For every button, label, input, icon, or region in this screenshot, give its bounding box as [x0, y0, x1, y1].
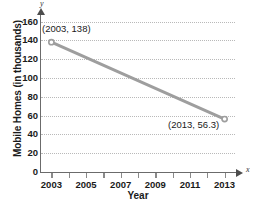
x-tick-mark: [190, 173, 191, 178]
y-axis-title: Mobile Homes (in thousands): [12, 9, 23, 169]
x-tick-mark: [103, 173, 104, 178]
gridline-horizontal: [41, 40, 235, 41]
y-axis-arrow-icon: [37, 8, 45, 15]
x-tick-mark: [69, 173, 70, 178]
chart-container: Mobile Homes (in thousands) y x 02040608…: [0, 0, 257, 207]
gridline-horizontal: [41, 97, 235, 98]
x-tick-mark: [51, 173, 52, 178]
x-tick-mark: [155, 173, 156, 178]
x-axis-arrow-icon: [236, 169, 243, 177]
y-tick-label: 40: [4, 128, 38, 139]
x-tick-label: 2013: [205, 179, 245, 190]
y-tick-label: 160: [4, 16, 38, 27]
gridline-horizontal: [41, 59, 235, 60]
y-tick-label: 120: [4, 53, 38, 64]
x-tick-mark: [86, 173, 87, 178]
y-tick-label: 60: [4, 110, 38, 121]
gridline-horizontal: [41, 134, 235, 135]
y-axis-line: [40, 14, 41, 172]
y-tick-label: 80: [4, 91, 38, 102]
x-tick-mark: [138, 173, 139, 178]
data-series-line: [0, 0, 257, 207]
y-tick-label: 0: [4, 166, 38, 177]
gridline-horizontal: [41, 153, 235, 154]
x-axis-variable-label: x: [246, 165, 250, 174]
data-point-annotation-end: (2013, 56.3): [168, 119, 219, 130]
data-point-marker: [222, 116, 227, 121]
x-tick-mark: [173, 173, 174, 178]
y-tick-label: 20: [4, 147, 38, 158]
data-point-annotation-start: (2003, 138): [42, 23, 91, 34]
x-tick-mark: [207, 173, 208, 178]
y-tick-label: 100: [4, 72, 38, 83]
gridline-horizontal: [41, 78, 235, 79]
x-tick-mark: [121, 173, 122, 178]
series-polyline: [51, 42, 224, 119]
y-axis-variable-label: y: [40, 0, 44, 8]
x-tick-mark: [225, 173, 226, 178]
gridline-horizontal: [41, 116, 235, 117]
x-axis-title: Year: [40, 190, 236, 201]
y-tick-label: 140: [4, 34, 38, 45]
